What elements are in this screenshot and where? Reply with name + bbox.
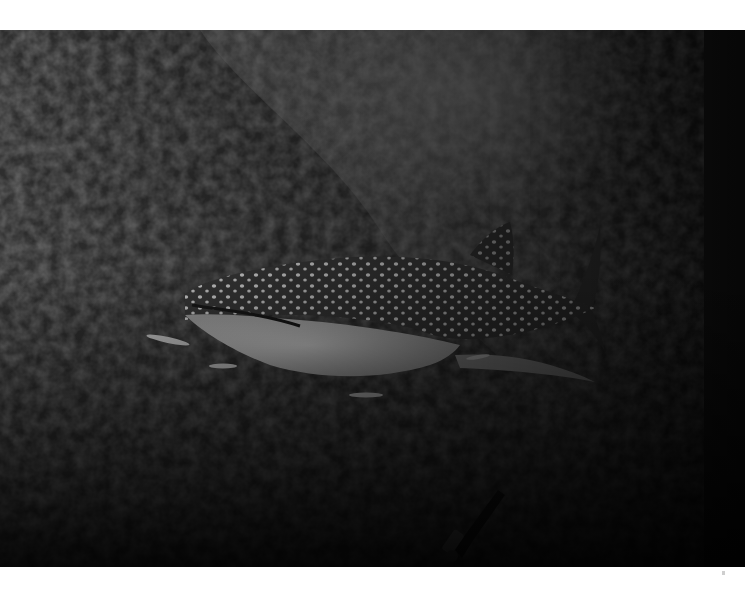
whale-shark-photo: [0, 30, 745, 567]
page-mark: [722, 571, 725, 575]
photo-scene: [0, 30, 745, 567]
page: [0, 0, 745, 591]
